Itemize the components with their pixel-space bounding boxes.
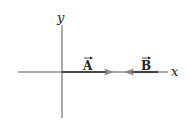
vector-a: A [62, 57, 114, 76]
vector-a-label: A [82, 59, 93, 73]
x-axis-label: x [171, 64, 179, 79]
y-axis-label: y [56, 10, 65, 25]
vector-b: B [124, 57, 158, 76]
vector-b-label: B [141, 59, 151, 73]
vector-diagram: y x A B [0, 0, 188, 125]
